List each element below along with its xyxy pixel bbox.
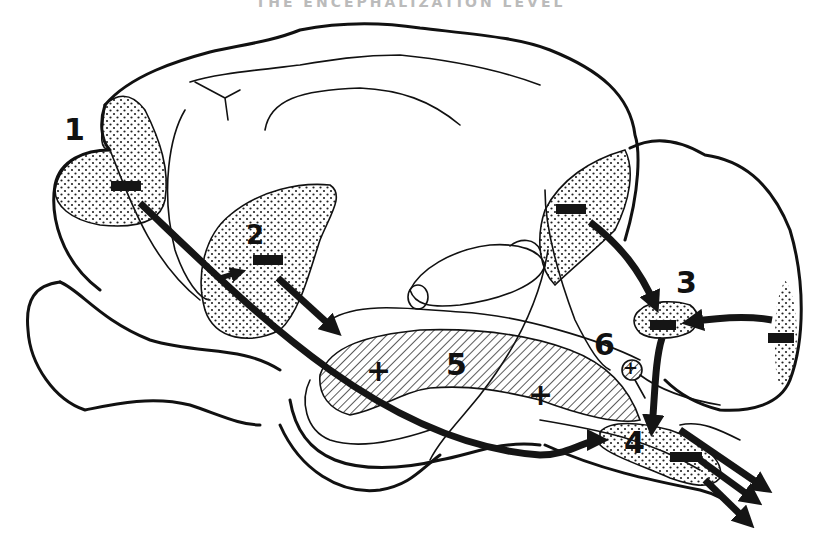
region-2-label: 2 bbox=[246, 222, 264, 248]
pathway-cerebellum-to-3 bbox=[690, 317, 772, 322]
region-4-minus-sign bbox=[670, 452, 702, 462]
region-4-label: 4 bbox=[624, 428, 645, 458]
region-3-minus-sign bbox=[650, 320, 676, 330]
pathway-3-to-4 bbox=[652, 338, 662, 428]
region-5-label: 5 bbox=[446, 350, 467, 380]
region-2-minus-sign bbox=[253, 255, 283, 265]
region-5-plus-left: + bbox=[366, 356, 391, 386]
region-5-plus-right: + bbox=[528, 380, 553, 410]
region-1-label: 1 bbox=[64, 115, 85, 145]
pathway-cortex-to-3 bbox=[590, 222, 655, 305]
region-3-label: 3 bbox=[676, 268, 697, 298]
cerebellum-minus-sign bbox=[768, 333, 794, 343]
region-6-plus-sign: + bbox=[623, 359, 638, 377]
region-4-area bbox=[600, 424, 721, 486]
region-1-minus-sign bbox=[111, 181, 141, 191]
posterior-cortex-area bbox=[540, 150, 630, 285]
region-6-label: 6 bbox=[594, 330, 615, 360]
brain-diagram: THE ENCEPHALIZATION LEVEL bbox=[0, 0, 821, 541]
figure-caption: THE ENCEPHALIZATION LEVEL bbox=[0, 0, 821, 10]
posterior-cortex-minus-sign bbox=[556, 204, 586, 214]
